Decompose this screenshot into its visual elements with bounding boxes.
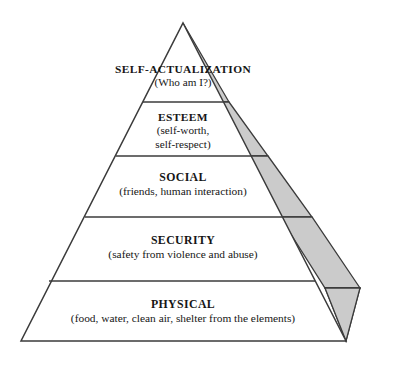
pyramid-graphic	[0, 0, 405, 366]
pyramid-diagram: SELF-ACTUALIZATION (Who am I?) ESTEEM (s…	[0, 0, 405, 366]
pyramid-front-face	[21, 23, 346, 341]
